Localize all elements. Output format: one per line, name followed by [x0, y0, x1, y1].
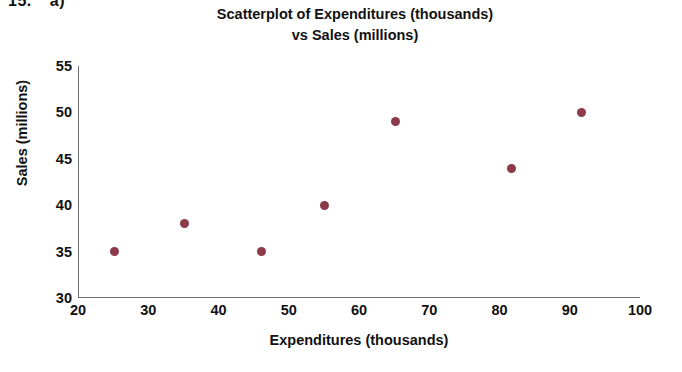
chart-title: Scatterplot of Expenditures (thousands) … — [120, 4, 590, 45]
x-axis-title: Expenditures (thousands) — [78, 332, 640, 348]
scatterplot-figure: 15.a) Scatterplot of Expenditures (thous… — [0, 0, 682, 372]
x-tick-label: 50 — [264, 302, 314, 318]
x-tick-label: 90 — [545, 302, 595, 318]
data-point — [577, 108, 586, 117]
y-tick-label: 35 — [32, 244, 72, 260]
x-tick-label: 60 — [334, 302, 384, 318]
data-point — [180, 219, 189, 228]
x-tick-label: 70 — [404, 302, 454, 318]
exercise-number: 15. — [8, 0, 32, 9]
y-axis-title: Sales (millions) — [14, 43, 30, 223]
x-tick-label: 30 — [123, 302, 173, 318]
data-point — [320, 201, 329, 210]
y-tick-label: 55 — [32, 58, 72, 74]
data-point — [507, 164, 516, 173]
exercise-part: a) — [50, 0, 65, 9]
x-axis-tick-labels: 2030405060708090100 — [78, 302, 640, 326]
data-point — [257, 247, 266, 256]
plot-area — [78, 66, 640, 298]
data-point — [110, 247, 119, 256]
chart-title-line-1: Scatterplot of Expenditures (thousands) — [217, 6, 493, 22]
chart-title-line-2: vs Sales (millions) — [120, 25, 590, 46]
data-point — [391, 117, 400, 126]
y-tick-label: 40 — [32, 197, 72, 213]
x-tick-label: 40 — [194, 302, 244, 318]
y-tick-label: 50 — [32, 104, 72, 120]
y-axis-tick-labels: 303540455055 — [26, 66, 72, 298]
x-tick-label: 80 — [475, 302, 525, 318]
x-tick-label: 100 — [615, 302, 665, 318]
x-tick-label: 20 — [53, 302, 103, 318]
exercise-label: 15.a) — [8, 0, 65, 10]
y-tick-label: 45 — [32, 151, 72, 167]
